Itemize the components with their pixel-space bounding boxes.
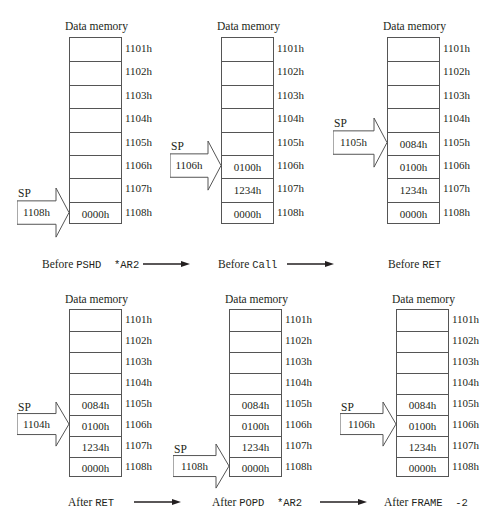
memory-cell: 0000h xyxy=(222,202,273,225)
memory-cell xyxy=(70,155,121,178)
data-memory-label: Data memory xyxy=(65,293,128,305)
memory-address: 1106h xyxy=(277,154,304,177)
step-caption: Before PSHD *AR2 xyxy=(42,258,139,271)
memory-cell xyxy=(70,331,121,352)
memory-address: 1108h xyxy=(443,201,470,224)
memory-address: 1105h xyxy=(277,131,304,154)
caption-instruction: RET xyxy=(422,259,441,271)
memory-address: 1105h xyxy=(125,131,152,154)
memory-cell xyxy=(388,108,439,131)
memory-address: 1104h xyxy=(452,372,479,393)
caption-prefix: After xyxy=(212,496,236,508)
memory-cell: 0000h xyxy=(70,457,121,478)
sp-value: 1106h xyxy=(340,414,383,435)
sp-label: SP xyxy=(18,187,31,199)
memory-address: 1103h xyxy=(285,351,312,372)
memory-cell: 0100h xyxy=(230,415,281,436)
memory-cell xyxy=(222,61,273,84)
flow-arrow-right-icon xyxy=(143,260,191,268)
memory-cell: 1234h xyxy=(230,436,281,457)
memory-address: 1102h xyxy=(277,60,304,83)
flow-arrow-right-icon xyxy=(320,498,368,506)
memory-cell xyxy=(230,310,281,331)
memory-cell: 1234h xyxy=(397,436,448,457)
memory-table: 0084h0100h1234h0000h xyxy=(229,309,282,477)
memory-cell xyxy=(70,108,121,131)
memory-cell xyxy=(388,61,439,84)
sp-value: 1108h xyxy=(17,201,56,224)
memory-cell: 0084h xyxy=(397,394,448,415)
memory-address: 1107h xyxy=(277,177,304,200)
memory-table: 0084h0100h1234h0000h xyxy=(396,309,449,477)
memory-cell xyxy=(388,38,439,61)
memory-address: 1103h xyxy=(443,84,470,107)
memory-cell: 0000h xyxy=(397,457,448,478)
memory-table: 0000h xyxy=(69,37,122,224)
memory-cell: 1234h xyxy=(70,436,121,457)
memory-cell: 0000h xyxy=(70,202,121,225)
sp-label: SP xyxy=(341,401,354,413)
memory-cell: 0000h xyxy=(230,457,281,478)
memory-cell xyxy=(397,331,448,352)
memory-cell xyxy=(70,178,121,201)
memory-address: 1102h xyxy=(125,330,152,351)
sp-label: SP xyxy=(334,117,347,129)
memory-cell xyxy=(70,38,121,61)
sp-value: 1104h xyxy=(17,414,56,435)
sp-label: SP xyxy=(18,401,31,413)
memory-cell xyxy=(222,85,273,108)
caption-prefix: After xyxy=(68,496,92,508)
memory-address: 1106h xyxy=(452,414,479,435)
memory-address: 1108h xyxy=(452,456,479,477)
memory-cell xyxy=(70,373,121,394)
memory-address: 1105h xyxy=(443,131,470,154)
memory-cell xyxy=(230,331,281,352)
memory-cell: 1234h xyxy=(388,178,439,201)
data-memory-label: Data memory xyxy=(217,20,280,32)
data-memory-label: Data memory xyxy=(225,293,288,305)
memory-cell xyxy=(70,352,121,373)
memory-address: 1103h xyxy=(125,84,152,107)
caption-instruction: Call xyxy=(252,259,277,271)
memory-cell xyxy=(70,85,121,108)
flow-arrow-right-icon xyxy=(287,260,335,268)
memory-address: 1102h xyxy=(125,60,152,83)
memory-cell xyxy=(70,310,121,331)
sp-value: 1105h xyxy=(333,131,374,154)
memory-address: 1103h xyxy=(452,351,479,372)
memory-address: 1102h xyxy=(285,330,312,351)
memory-address: 1102h xyxy=(443,60,470,83)
sp-value: 1106h xyxy=(170,154,208,177)
memory-table: 0084h0100h1234h0000h xyxy=(69,309,122,477)
memory-address: 1105h xyxy=(285,393,312,414)
memory-cell xyxy=(222,38,273,61)
memory-address: 1107h xyxy=(285,435,312,456)
memory-address: 1107h xyxy=(125,435,152,456)
memory-address: 1101h xyxy=(443,37,470,60)
step-caption: Before Call xyxy=(218,258,277,271)
caption-instruction: RET xyxy=(95,497,114,509)
data-memory-label: Data memory xyxy=(392,293,455,305)
memory-cell: 0084h xyxy=(230,394,281,415)
caption-instruction: PSHD *AR2 xyxy=(76,259,139,271)
sp-value: 1108h xyxy=(173,456,216,477)
memory-cell: 0100h xyxy=(397,415,448,436)
memory-cell xyxy=(397,352,448,373)
memory-cell: 0100h xyxy=(70,415,121,436)
memory-address: 1107h xyxy=(452,435,479,456)
step-caption: After FRAME -2 xyxy=(384,496,468,509)
memory-address: 1108h xyxy=(125,456,152,477)
memory-address: 1108h xyxy=(285,456,312,477)
step-caption: After POPD *AR2 xyxy=(212,496,302,509)
memory-cell xyxy=(222,108,273,131)
memory-cell: 0084h xyxy=(70,394,121,415)
memory-cell xyxy=(222,132,273,155)
memory-cell xyxy=(230,373,281,394)
memory-address: 1105h xyxy=(452,393,479,414)
memory-cell: 0000h xyxy=(388,202,439,225)
memory-cell xyxy=(388,85,439,108)
memory-address: 1101h xyxy=(285,309,312,330)
caption-prefix: Before xyxy=(218,258,249,270)
memory-address: 1108h xyxy=(277,201,304,224)
caption-prefix: Before xyxy=(42,258,73,270)
